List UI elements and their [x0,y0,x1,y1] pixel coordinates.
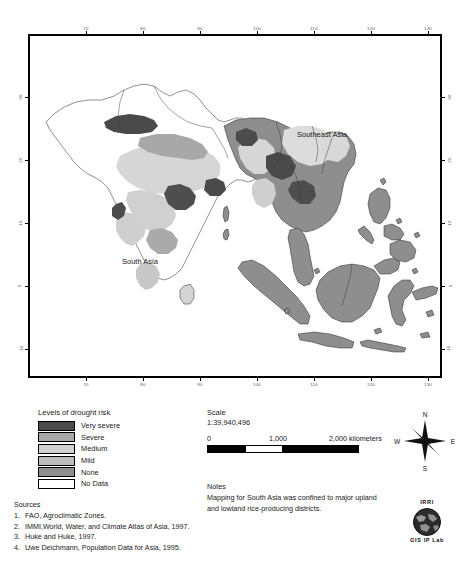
tick-mark-top [371,31,372,34]
x-tick-label-top: 100 [253,26,261,31]
y-tick-label-right: 30 [447,94,452,99]
y-tick-label-right: 10 [447,220,452,225]
map-landmasses [46,84,438,352]
tick-mark-left [25,286,28,287]
legend: Levels of drought risk Very severe Sever… [38,408,203,490]
y-tick-label-left: 20 [18,157,23,162]
land-malay-peninsula [288,228,314,286]
scale-bar-segment-filled [208,446,246,452]
land-borneo [316,264,380,322]
source-text: Uwe Deichmann, Population Data for Asia,… [25,543,210,553]
scale-number-0: 0 [207,434,211,443]
irri-logo-org: IRRI [404,500,450,506]
tick-mark-bottom [371,378,372,381]
source-item: 1. FAO, Agroclimatic Zones. [14,511,210,521]
tick-mark-bottom [200,378,201,381]
land-luzon [368,188,390,224]
tick-mark-top [143,31,144,34]
tick-mark-right [442,97,445,98]
legend-label-no-data: No Data [81,479,108,488]
scale-number-2000: 2,000 kilometers [329,434,382,443]
globe-icon [410,507,444,537]
tick-mark-right [442,286,445,287]
source-text: IMMI,World, Water, and Climate Atlas of … [25,522,210,532]
legend-item-none: None [38,466,203,478]
land-sri-lanka [180,284,194,304]
y-tick-label-left: 30 [18,94,23,99]
land-palawan [358,226,374,244]
y-tick-label-left: 0 [17,285,22,288]
y-tick-label-left: 10 [18,220,23,225]
scale-number-row: 0 1,000 2,000 kilometers [207,434,377,445]
x-tick-label-bottom: 120 [367,382,375,387]
notes-title: Notes [207,482,385,493]
tick-mark-top [200,31,201,34]
x-tick-label-bottom: 90 [197,382,202,387]
land-nicobar-islands [223,229,229,240]
irri-logo: IRRI GIS IP Lab [404,500,450,550]
scale-title: Scale [207,408,377,417]
land-andaman-islands [223,206,229,222]
x-tick-label-top: 120 [367,26,375,31]
source-number: 4. [14,543,25,553]
tick-mark-top [86,31,87,34]
x-tick-label-bottom: 80 [140,382,145,387]
land-java [298,332,354,348]
land-sulawesi-east-arm [412,286,438,300]
source-item: 3. Huke and Huke, 1997. [14,532,210,542]
x-tick-label-top: 70 [83,26,88,31]
tick-mark-top [428,31,429,34]
scale-block: Scale 1:39,940,496 0 1,000 2,000 kilomet… [207,408,377,453]
legend-swatch-no-data [38,479,75,489]
sources-block: Sources 1. FAO, Agroclimatic Zones. 2. I… [14,500,210,553]
tick-mark-left [25,160,28,161]
x-tick-label-top: 130 [424,26,432,31]
source-text: Huke and Huke, 1997. [25,532,210,542]
tick-mark-top [314,31,315,34]
legend-label-mild: Mild [81,456,95,465]
x-tick-label-bottom: 70 [83,382,88,387]
tick-mark-bottom [86,378,87,381]
legend-swatch-none [38,467,75,477]
legend-swatch-mild [38,456,75,466]
source-number: 3. [14,532,25,542]
tick-mark-right [442,349,445,350]
y-tick-label-right: 20 [447,157,452,162]
notes-text: Mapping for South Asia was confined to m… [207,493,385,515]
compass-rose: N S W E [392,408,458,474]
region-label-southeast-asia: Southeast Asia [297,130,347,139]
tick-mark-bottom [257,378,258,381]
x-tick-label-bottom: 130 [424,382,432,387]
tick-mark-bottom [143,378,144,381]
source-item: 2. IMMI,World, Water, and Climate Atlas … [14,522,210,532]
legend-label-medium: Medium [81,444,107,453]
legend-swatch-severe [38,432,75,442]
y-tick-label-right: 0 [448,285,453,288]
x-tick-label-top: 80 [140,26,145,31]
x-tick-label-bottom: 110 [310,382,318,387]
map-panel: 70 80 90 100 110 120 130 70 80 90 100 11… [28,34,442,378]
legend-item-medium: Medium [38,443,203,455]
tick-mark-top [257,31,258,34]
legend-item-very-severe: Very severe [38,420,203,432]
land-visayas [384,224,404,240]
legend-label-very-severe: Very severe [81,421,120,430]
legend-label-none: None [81,468,99,477]
compass-label-north: N [423,411,428,418]
compass-rose-icon: N S W E [392,408,458,474]
x-tick-label-top: 90 [197,26,202,31]
source-number: 1. [14,511,25,521]
legend-swatch-very-severe [38,421,75,431]
tick-mark-right [442,223,445,224]
sources-title: Sources [14,500,210,510]
legend-item-severe: Severe [38,432,203,444]
source-text: FAO, Agroclimatic Zones. [25,511,210,521]
compass-label-east: E [451,438,456,445]
drought-risk-map [28,34,442,378]
region-label-south-asia: South Asia [122,257,158,266]
x-tick-label-top: 110 [310,26,318,31]
land-borneo-north-arm [374,258,400,274]
notes-block: Notes Mapping for South Asia was confine… [207,482,385,514]
tick-mark-left [25,97,28,98]
y-tick-label-left: -10 [19,346,24,353]
